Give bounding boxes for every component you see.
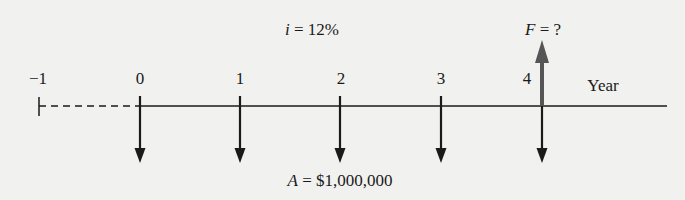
- period-label-2: 2: [337, 70, 346, 87]
- period-label-3: 3: [437, 70, 446, 87]
- period-label-4: 4: [523, 70, 532, 87]
- annuity-value: = $1,000,000: [298, 171, 393, 190]
- future-var: F: [525, 20, 535, 39]
- future-value-label: F = ?: [525, 21, 561, 38]
- cash-flow-diagram: [0, 0, 685, 200]
- period-label-0: 0: [136, 70, 145, 87]
- interest-value: = 12%: [290, 20, 339, 39]
- interest-rate-label: i = 12%: [285, 21, 339, 38]
- axis-label-year: Year: [587, 77, 618, 94]
- period-label-minus1: −1: [29, 70, 47, 87]
- future-value: = ?: [535, 20, 561, 39]
- annuity-label: A = $1,000,000: [288, 172, 393, 189]
- annuity-var: A: [288, 171, 298, 190]
- up-arrow-icon: [535, 40, 549, 106]
- period-label-1: 1: [236, 70, 245, 87]
- down-arrow-icon: [537, 106, 548, 163]
